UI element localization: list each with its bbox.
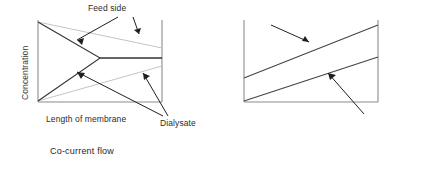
y-axis-title: Concentration (20, 46, 30, 100)
dialysate-curve (244, 57, 378, 101)
panel-caption-co-current: Co-current flow (50, 146, 114, 156)
dialysate-annotation-arrows (77, 72, 168, 116)
panel-counter-current: Concentration Length of membrane Feed si… (216, 0, 432, 178)
feed-side-annotation-arrow (271, 25, 309, 42)
dialysate-annotation-arrow (328, 73, 364, 114)
feed-side-label: Feed side (88, 3, 126, 13)
dialysate-curve (38, 58, 162, 101)
counter-current-plot (216, 0, 432, 178)
panel-co-current: Concentration Length of membrane Feed si… (0, 0, 216, 178)
feed-side-curve (244, 25, 378, 78)
x-axis-title: Length of membrane (46, 114, 126, 124)
feed-guide-line (38, 22, 162, 48)
feed-side-annotation-arrows (77, 17, 141, 45)
dialysis-concentration-profiles-figure: Concentration Length of membrane Feed si… (0, 0, 432, 178)
dialysate-label: Dialysate (160, 118, 196, 128)
